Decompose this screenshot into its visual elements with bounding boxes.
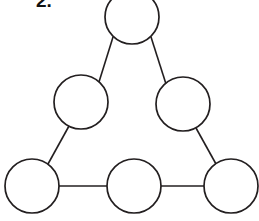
node-bottom-right[interactable] bbox=[204, 159, 258, 213]
node-bottom-center[interactable] bbox=[107, 159, 161, 213]
node-middle-left[interactable] bbox=[54, 75, 108, 129]
edge-middle-right-to-bottom-right bbox=[196, 128, 216, 164]
node-top[interactable] bbox=[105, 0, 159, 44]
diagram-page: 2. bbox=[0, 0, 259, 221]
edge-top-to-middle-left bbox=[99, 37, 113, 82]
node-bottom-left[interactable] bbox=[5, 159, 59, 213]
edge-top-to-middle-right bbox=[151, 37, 166, 84]
magic-triangle-diagram bbox=[0, 0, 259, 221]
node-group bbox=[5, 0, 258, 213]
edge-middle-left-to-bottom-left bbox=[48, 126, 69, 164]
node-middle-right[interactable] bbox=[156, 77, 210, 131]
